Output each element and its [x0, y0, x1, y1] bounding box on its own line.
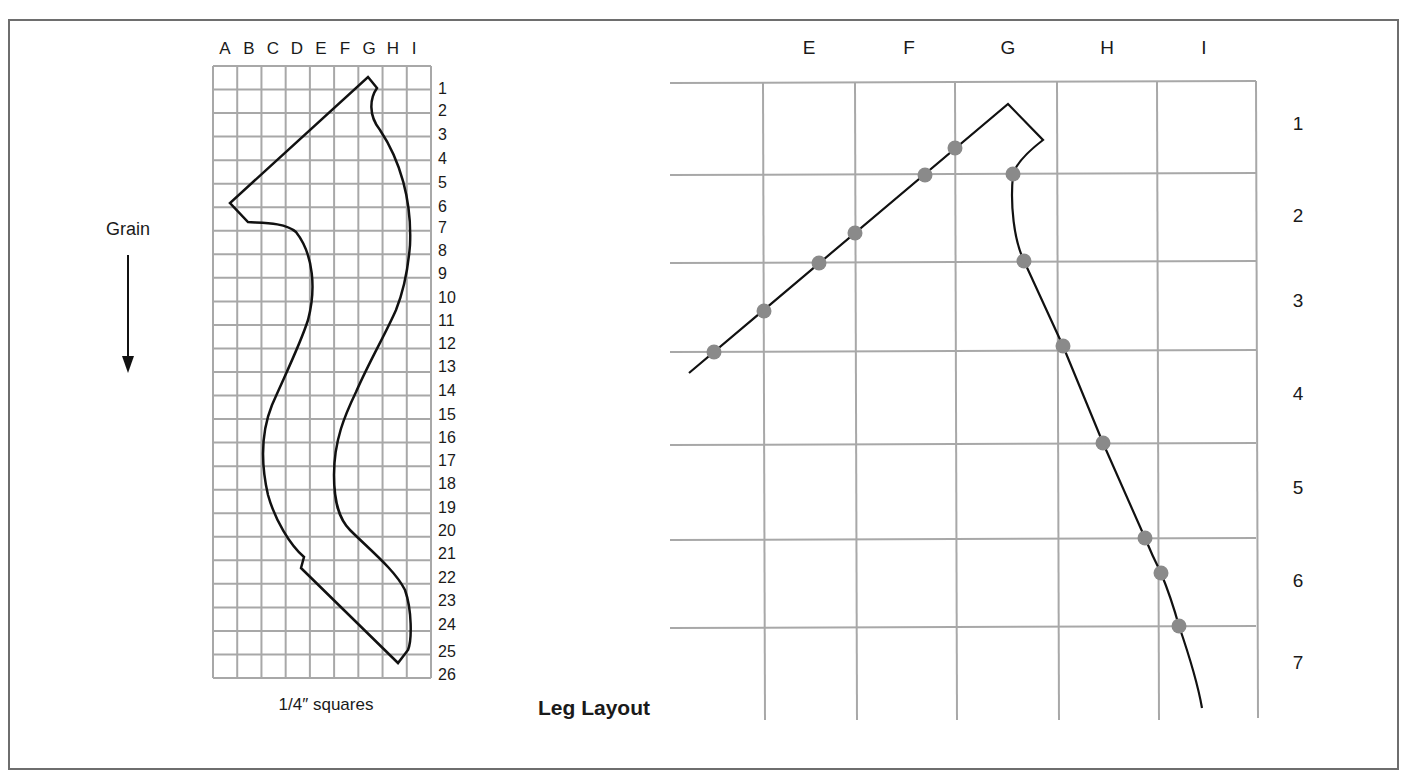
column-label: D	[291, 39, 303, 58]
reference-point	[1172, 619, 1187, 634]
reference-point	[948, 141, 963, 156]
reference-point	[918, 168, 933, 183]
leg-layout-outline	[689, 104, 1202, 708]
column-label: B	[243, 39, 254, 58]
row-label: 3	[1293, 290, 1304, 311]
figure-title: Leg Layout	[538, 696, 650, 719]
reference-point	[848, 226, 863, 241]
row-label: 10	[438, 289, 456, 306]
row-label: 12	[438, 335, 456, 352]
column-label: G	[1001, 37, 1016, 58]
row-label: 7	[1293, 652, 1304, 673]
row-label: 8	[438, 242, 447, 259]
row-label: 26	[438, 666, 456, 683]
row-label: 7	[438, 219, 447, 236]
reference-point	[812, 256, 827, 271]
column-label: C	[267, 39, 279, 58]
row-label: 25	[438, 643, 456, 660]
row-label: 22	[438, 569, 456, 586]
row-label: 6	[438, 198, 447, 215]
row-label: 11	[438, 312, 455, 329]
reference-point	[1096, 436, 1111, 451]
leg-pattern-outline	[230, 77, 411, 663]
row-label: 1	[438, 80, 447, 97]
row-label: 17	[438, 452, 456, 469]
column-label: F	[903, 37, 915, 58]
row-label: 5	[438, 174, 447, 191]
column-label: E	[315, 39, 326, 58]
row-label: 24	[438, 616, 456, 633]
layout-grid	[670, 81, 1258, 720]
down-arrow-icon	[122, 255, 134, 373]
column-label: H	[1100, 37, 1114, 58]
reference-point	[1138, 531, 1153, 546]
column-label: F	[340, 39, 350, 58]
reference-point	[707, 345, 722, 360]
layout-reference-points	[707, 141, 1187, 634]
pattern-grid-column-labels: A B C D E F G H I	[219, 39, 416, 58]
row-label: 18	[438, 475, 456, 492]
row-label: 13	[438, 358, 456, 375]
row-label: 20	[438, 522, 456, 539]
pattern-grid	[213, 66, 431, 678]
leg-layout-figure: A B C D E F G H I 1 2 3 4 5 6 7 8 9 10 1…	[0, 0, 1406, 784]
layout-grid-column-labels: E F G H I	[803, 37, 1207, 58]
row-label: 21	[438, 545, 456, 562]
row-label: 19	[438, 499, 456, 516]
row-label: 9	[438, 265, 447, 282]
row-label: 15	[438, 406, 456, 423]
grain-indicator: Grain	[106, 219, 150, 373]
layout-grid-row-labels: 1 2 3 4 5 6 7	[1293, 113, 1304, 673]
grain-label: Grain	[106, 219, 150, 239]
row-label: 2	[1293, 205, 1304, 226]
column-label: A	[219, 39, 231, 58]
row-label: 2	[438, 102, 447, 119]
reference-point	[1154, 566, 1169, 581]
row-label: 14	[438, 382, 456, 399]
column-label: I	[1201, 37, 1206, 58]
row-label: 5	[1293, 477, 1304, 498]
column-label: I	[412, 39, 417, 58]
row-label: 6	[1293, 570, 1304, 591]
row-label: 4	[1293, 383, 1304, 404]
reference-point	[757, 304, 772, 319]
reference-point	[1056, 339, 1071, 354]
row-label: 3	[438, 126, 447, 143]
column-label: E	[803, 37, 816, 58]
reference-point	[1006, 167, 1021, 182]
grid-scale-caption: 1/4″ squares	[279, 695, 374, 714]
row-label: 23	[438, 592, 456, 609]
column-label: G	[362, 39, 375, 58]
pattern-grid-row-labels: 1 2 3 4 5 6 7 8 9 10 11 12 13 14 15 16 1…	[438, 80, 456, 683]
row-label: 4	[438, 150, 447, 167]
reference-point	[1017, 254, 1032, 269]
row-label: 16	[438, 429, 456, 446]
column-label: H	[387, 39, 399, 58]
row-label: 1	[1293, 113, 1304, 134]
